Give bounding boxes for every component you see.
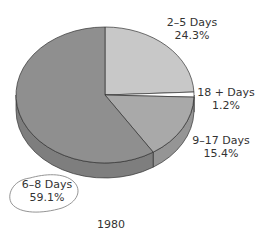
slice-label-9-17-days: 9–17 Days 15.4% — [180, 134, 262, 160]
slice-value: 59.1% — [14, 191, 80, 204]
slice-value: 15.4% — [180, 147, 262, 160]
slice-name: 18 + Days — [190, 86, 262, 99]
slice-label-6-8-days: 6–8 Days 59.1% — [14, 178, 80, 204]
slice-name: 9–17 Days — [180, 134, 262, 147]
pie-slices — [16, 27, 194, 163]
chart-caption-year: 1980 — [86, 218, 136, 231]
slice-label-18-plus-days: 18 + Days 1.2% — [190, 86, 262, 112]
slice-name: 6–8 Days — [14, 178, 80, 191]
slice-name: 2–5 Days — [152, 16, 232, 29]
slice-label-2-5-days: 2–5 Days 24.3% — [152, 16, 232, 42]
slice-value: 1.2% — [190, 99, 262, 112]
slice-value: 24.3% — [152, 29, 232, 42]
